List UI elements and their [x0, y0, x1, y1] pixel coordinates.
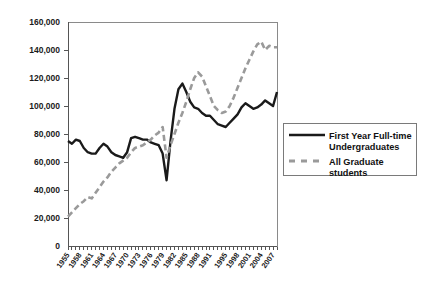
- x-axis-tick-label: 2007: [260, 251, 277, 270]
- legend-label-1-line1: All Graduate: [329, 157, 384, 167]
- y-axis-tick-label: 0: [55, 241, 60, 251]
- x-axis-tick-marks: [68, 246, 277, 250]
- legend-label-0-line1: First Year Full-time: [329, 131, 412, 141]
- data-series-group: [68, 42, 277, 217]
- y-axis-tick-label: 120,000: [29, 73, 60, 83]
- chart-legend: First Year Full-timeUndergraduatesAll Gr…: [283, 123, 416, 178]
- y-axis-tick-label: 100,000: [29, 101, 60, 111]
- y-axis-tick-label: 80,000: [34, 129, 60, 139]
- chart-container: 160,000140,000120,000100,00080,00060,000…: [0, 0, 435, 290]
- y-axis-tick-label: 140,000: [29, 45, 60, 55]
- y-axis-tick-label: 40,000: [34, 185, 60, 195]
- y-axis-tick-label: 160,000: [29, 17, 60, 27]
- legend-label-0-line2: Undergraduates: [329, 142, 399, 152]
- legend-label-1-line2: students: [329, 168, 367, 178]
- series-line-0: [68, 84, 277, 181]
- y-axis-tick-marks: [64, 50, 68, 218]
- y-axis-tick-labels: 160,000140,000120,000100,00080,00060,000…: [29, 17, 60, 251]
- y-axis-tick-label: 20,000: [34, 213, 60, 223]
- x-axis-tick-labels: 1955195819611964196719701973197619791982…: [55, 250, 277, 270]
- x-axis-tick-label: 1991: [197, 250, 215, 270]
- line-chart: 160,000140,000120,000100,00080,00060,000…: [0, 0, 435, 290]
- y-axis-tick-label: 60,000: [34, 157, 60, 167]
